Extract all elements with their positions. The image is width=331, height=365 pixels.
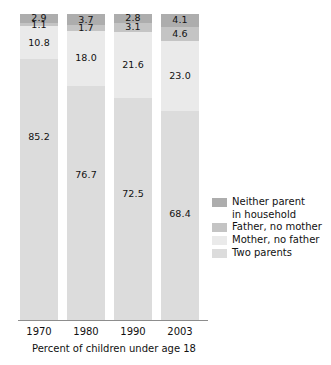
bar-segment-value: 76.7 [75,170,97,180]
legend-item[interactable]: Mother, no father [212,234,330,247]
bar-segment: 3.1 [114,23,152,32]
legend-swatch-icon [212,223,227,232]
legend-label: Two parents [232,247,292,260]
bar-column-2003: 4.14.623.068.4 [161,14,199,320]
legend-swatch-icon [212,236,227,245]
legend-item[interactable]: Neither parent in household [212,196,330,221]
bar-column-1970: 2.91.110.885.2 [20,14,58,320]
chart-legend: Neither parent in householdFather, no mo… [212,196,330,260]
legend-item[interactable]: Father, no mother [212,221,330,234]
bar-column-1980: 3.71.718.076.7 [67,14,105,320]
bar-segment-value: 18.0 [75,53,97,63]
legend-label: Mother, no father [232,234,319,247]
legend-item[interactable]: Two parents [212,247,330,260]
bar-segment-value: 4.1 [172,15,187,25]
bar-segment-value: 1.1 [31,20,46,30]
bar-segment-value: 72.5 [122,189,144,199]
bars-row: 2.91.110.885.23.71.718.076.72.83.121.672… [20,14,210,320]
stacked-bar-chart: 2.91.110.885.23.71.718.076.72.83.121.672… [0,0,331,365]
bar-segment-value: 3.1 [125,22,140,32]
bar-segment-value: 23.0 [169,71,191,81]
bar-segment-value: 10.8 [28,38,50,48]
bar-segment-value: 4.6 [172,29,187,39]
x-tick-1970: 1970 [20,324,58,340]
bar-segment: 4.1 [161,14,199,27]
bar-segment: 10.8 [20,26,58,59]
bar-column-1990: 2.83.121.672.5 [114,14,152,320]
x-tick-1990: 1990 [114,324,152,340]
bar-segment-value: 85.2 [28,132,50,142]
x-axis-tick-labels: 1970198019902003 [20,324,210,340]
legend-label: Neither parent in household [232,196,305,221]
x-axis-line [18,320,208,321]
bar-segment: 18.0 [67,31,105,86]
chart-caption: Percent of children under age 18 [0,343,228,354]
bar-segment: 21.6 [114,32,152,98]
bar-segment-value: 68.4 [169,209,191,219]
x-tick-1980: 1980 [67,324,105,340]
bar-segment-value: 1.7 [78,23,93,33]
bar-segment: 68.4 [161,111,199,320]
x-tick-2003: 2003 [161,324,199,340]
bar-segment: 76.7 [67,86,105,320]
legend-swatch-icon [212,249,227,258]
legend-swatch-icon [212,198,227,207]
bar-segment: 85.2 [20,59,58,320]
bar-segment: 23.0 [161,41,199,111]
bar-segment: 4.6 [161,27,199,41]
bar-segment-value: 21.6 [122,60,144,70]
legend-label: Father, no mother [232,221,322,234]
plot-area: 2.91.110.885.23.71.718.076.72.83.121.672… [20,14,210,320]
bar-segment: 72.5 [114,98,152,320]
